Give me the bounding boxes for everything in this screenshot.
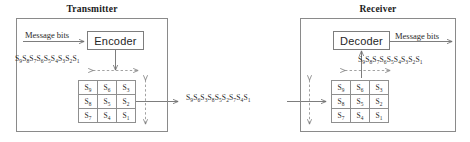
- decoder-label: Decoder: [340, 35, 383, 47]
- matrix-cell: S8: [79, 95, 98, 109]
- matrix-cell: S4: [98, 109, 117, 123]
- matrix-row: S7S4S1: [79, 109, 136, 123]
- matrix-row: S9S6S3: [332, 81, 389, 95]
- receiver-sequence-label: S9S8S7S6S5S4S3S2S1: [358, 55, 423, 65]
- matrix-row: S7S4S1: [332, 109, 389, 123]
- encoder-block: Encoder: [87, 31, 144, 50]
- receiver-output-label: Message bits: [395, 31, 439, 41]
- matrix-cell: S9: [332, 81, 351, 95]
- transmitter-title: Transmitter: [16, 4, 168, 14]
- matrix-cell: S9: [79, 81, 98, 95]
- matrix-cell: S5: [98, 95, 117, 109]
- decoder-block: Decoder: [333, 31, 390, 50]
- matrix-cell: S3: [370, 81, 389, 95]
- matrix-row: S8S5S2: [79, 95, 136, 109]
- receiver-title: Receiver: [300, 4, 456, 14]
- matrix-cell: S5: [351, 95, 370, 109]
- matrix-cell: S6: [351, 81, 370, 95]
- matrix-cell: S7: [79, 109, 98, 123]
- matrix-cell: S3: [117, 81, 136, 95]
- matrix-cell: S6: [98, 81, 117, 95]
- matrix-cell: S7: [332, 109, 351, 123]
- channel-sequence-label: S9S6S3S8S5S2S7S4S1: [186, 93, 251, 103]
- transmitter-input-label: Message bits: [25, 30, 69, 40]
- interleaver-diagram: Transmitter Message bits Encoder S9S8S7S…: [0, 0, 470, 142]
- receiver-deinterleaver-matrix: S9S6S3S8S5S2S7S4S1: [331, 80, 389, 123]
- transmitter-sequence-label: S9S8S7S6S5S4S3S2S1: [15, 54, 80, 64]
- matrix-cell: S1: [117, 109, 136, 123]
- matrix-cell: S2: [117, 95, 136, 109]
- matrix-cell: S2: [370, 95, 389, 109]
- matrix-cell: S8: [332, 95, 351, 109]
- matrix-row: S9S6S3: [79, 81, 136, 95]
- matrix-cell: S1: [370, 109, 389, 123]
- matrix-cell: S4: [351, 109, 370, 123]
- encoder-label: Encoder: [94, 35, 136, 47]
- transmitter-interleaver-matrix: S9S6S3S8S5S2S7S4S1: [78, 80, 136, 123]
- matrix-row: S8S5S2: [332, 95, 389, 109]
